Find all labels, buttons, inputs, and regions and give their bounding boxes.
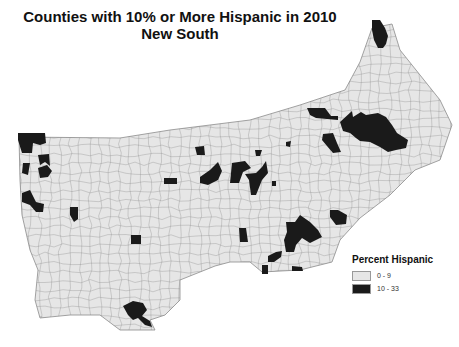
legend-title: Percent Hispanic: [352, 254, 433, 265]
county-border-line: [0, 324, 459, 328]
county-border-line: [0, 315, 459, 319]
county-border-line: [448, 0, 452, 342]
county-border-line: [8, 0, 12, 342]
legend-label-high: 10 - 33: [377, 285, 399, 292]
map-title-line2: New South: [0, 25, 360, 42]
map-title-line1: Counties with 10% or More Hispanic in 20…: [0, 8, 360, 25]
legend: Percent Hispanic 0 - 9 10 - 33: [352, 254, 433, 295]
legend-swatch-low: [352, 271, 371, 281]
legend-swatch-high: [352, 284, 371, 294]
central-mississippi-county: [131, 235, 141, 244]
county-border-line: [0, 0, 2, 342]
map-title: Counties with 10% or More Hispanic in 20…: [0, 8, 360, 42]
legend-label-low: 0 - 9: [377, 272, 391, 279]
west-tennessee-county: [164, 178, 177, 184]
legend-item-low: 0 - 9: [352, 269, 433, 282]
legend-item-high: 10 - 33: [352, 282, 433, 295]
county-border-line: [438, 0, 442, 342]
